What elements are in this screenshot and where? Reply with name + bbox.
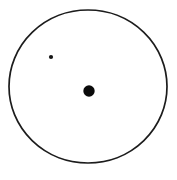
large-dot xyxy=(83,85,94,96)
circle-diagram xyxy=(0,0,177,180)
diagram-canvas xyxy=(0,0,177,180)
small-dot xyxy=(49,55,53,59)
